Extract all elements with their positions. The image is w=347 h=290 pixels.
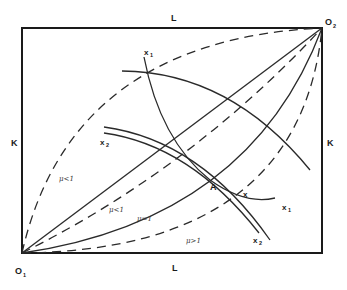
mu-label-outer-left: μ<1	[59, 175, 74, 183]
right-axis-label: K	[327, 138, 334, 148]
mu-label-lower-right: μ>1	[186, 237, 201, 245]
isoquant-x2-lower	[104, 133, 259, 233]
x2-left-label: x	[100, 138, 105, 147]
diagonal-line	[22, 28, 322, 253]
x2-bottom-label: x	[253, 236, 258, 245]
origin-1-subscript: 1	[23, 272, 26, 278]
x2-bottom-subscript: 2	[259, 240, 262, 246]
origin-1-label: O	[15, 266, 22, 276]
x1-top-subscript: 1	[150, 52, 153, 58]
left-axis-label: K	[11, 138, 18, 148]
point-x-label: x	[243, 190, 248, 199]
isoquant-upper-arc	[122, 71, 310, 170]
point-a-label: A	[210, 182, 217, 192]
x1-right-subscript: 1	[288, 207, 291, 213]
x2-left-subscript: 2	[106, 142, 109, 148]
origin-2-subscript: 2	[333, 23, 336, 29]
bottom-axis-label: L	[172, 263, 178, 273]
mu-label-middle: μ=1	[137, 215, 152, 223]
top-axis-label: L	[171, 13, 177, 23]
x1-top-label: x	[144, 48, 149, 57]
origin-2-label: O	[325, 17, 332, 27]
x1-right-label: x	[282, 203, 287, 212]
edgeworth-box-diagram: L L K K O 1 O 2 x 1 x 2 x 1 x 2 A x μ<1 …	[0, 0, 347, 290]
mu-label-inner-left: μ<1	[109, 206, 124, 214]
